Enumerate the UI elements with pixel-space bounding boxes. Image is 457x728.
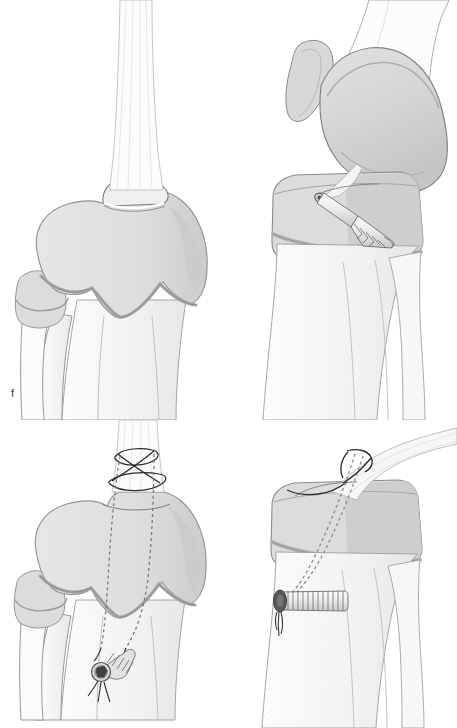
panel-g: g — [229, 0, 457, 420]
panel-f-illustration — [0, 0, 229, 420]
figure-plate: f — [0, 0, 457, 728]
panel-i-illustration — [229, 420, 457, 728]
screw-post-head-inner — [277, 595, 283, 607]
panel-h: h — [0, 420, 229, 728]
patellar-tendon — [110, 0, 163, 190]
panel-label-f: f — [11, 388, 14, 399]
fibula-lateral — [389, 252, 425, 420]
panel-f: f — [0, 0, 229, 420]
panel-g-illustration — [229, 0, 457, 420]
fibula-lateral — [388, 560, 424, 728]
panel-i: i — [229, 420, 457, 728]
panel-h-illustration — [0, 420, 229, 728]
transverse-screw-post — [274, 590, 349, 612]
